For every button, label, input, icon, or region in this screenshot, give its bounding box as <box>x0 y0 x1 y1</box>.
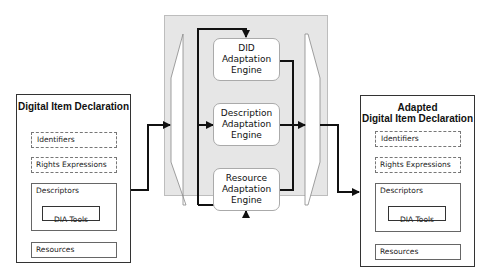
output-identifiers: Identifiers <box>375 131 461 147</box>
input-dia-tools: DIA Tools <box>42 206 100 221</box>
did-adaptation-engine: DID Adaptation Engine <box>213 38 280 81</box>
output-dia-tools: DIA Tools <box>388 206 446 221</box>
resource-adaptation-engine: Resource Adaptation Engine <box>213 168 280 211</box>
output-rights-expressions: Rights Expressions <box>375 157 461 173</box>
output-did-box: Adapted Digital Item Declaration Identif… <box>360 95 475 267</box>
input-did-box: Digital Item Declaration Identifiers Rig… <box>16 94 131 263</box>
input-identifiers: Identifiers <box>31 132 117 148</box>
output-did-title-line1: Adapted <box>361 102 474 113</box>
output-resources: Resources <box>375 244 461 260</box>
output-descriptors: Descriptors DIA Tools <box>375 183 461 232</box>
input-resources: Resources <box>31 242 117 258</box>
output-did-title-line2: Digital Item Declaration <box>361 113 474 124</box>
input-did-title: Digital Item Declaration <box>17 101 130 112</box>
input-descriptors: Descriptors DIA Tools <box>31 183 117 231</box>
input-rights-expressions: Rights Expressions <box>31 157 117 173</box>
description-adaptation-engine: Description Adaptation Engine <box>213 103 280 146</box>
